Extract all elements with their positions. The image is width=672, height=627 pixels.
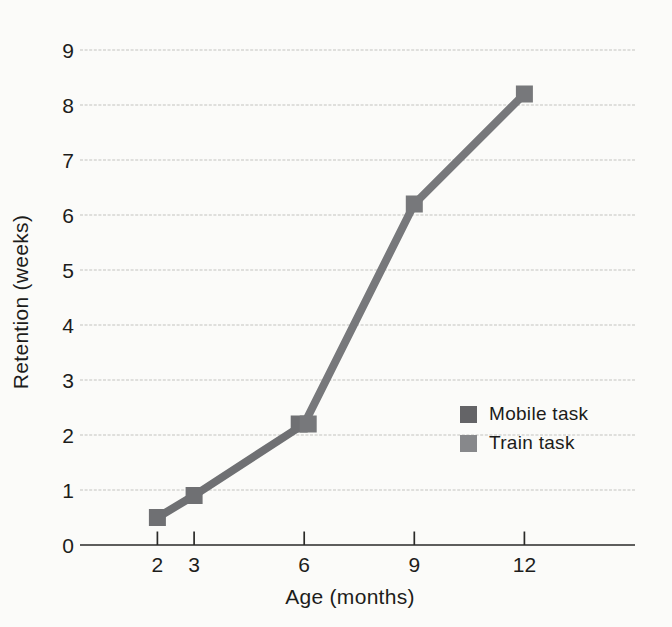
y-tick-label: 5 [62,259,74,282]
y-axis-title: Retention (weeks) [9,215,33,389]
legend-label: Train task [489,432,575,454]
x-tick-label: 6 [298,553,310,576]
series-line-mobile-task [157,424,304,518]
x-tick-label: 3 [188,553,200,576]
series-line-train-task [304,94,524,424]
chart-legend: Mobile task Train task [460,404,588,453]
chart-plot-area: 2369120123456789 [0,0,672,627]
data-point-marker [516,86,533,103]
legend-label: Mobile task [489,403,588,425]
y-tick-label: 8 [62,94,74,117]
y-tick-label: 6 [62,204,74,227]
x-tick-label: 9 [408,553,420,576]
x-axis-title: Age (months) [285,585,415,609]
y-tick-label: 2 [62,424,74,447]
x-tick-label: 2 [152,553,164,576]
y-tick-label: 0 [62,534,74,557]
y-tick-label: 9 [62,39,74,62]
y-tick-label: 7 [62,149,74,172]
x-tick-label: 12 [513,553,536,576]
legend-item-train-task: Train task [460,433,588,453]
y-tick-label: 3 [62,369,74,392]
legend-item-mobile-task: Mobile task [460,404,588,424]
data-point-marker [149,509,166,526]
data-point-marker [186,487,203,504]
data-point-marker [406,196,423,213]
retention-line-chart-figure: 2369120123456789 Retention (weeks) Age (… [0,0,672,627]
data-point-marker [300,416,317,433]
y-tick-label: 4 [62,314,74,337]
y-tick-label: 1 [62,479,74,502]
legend-swatch-square-icon [460,435,477,452]
legend-swatch-square-icon [460,406,477,423]
